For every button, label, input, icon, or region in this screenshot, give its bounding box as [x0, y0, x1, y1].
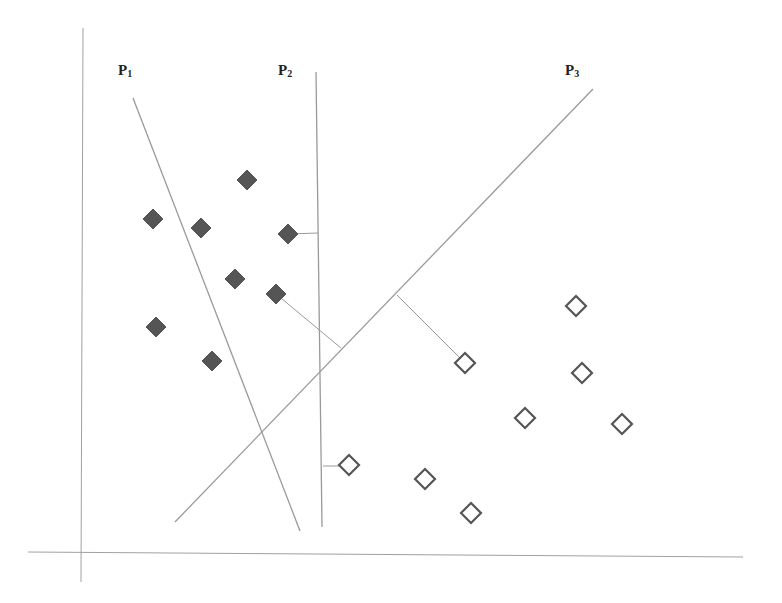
filled-diamond-point: [278, 224, 298, 244]
open-diamond-point: [566, 296, 586, 316]
margin-line: [397, 295, 465, 363]
open-diamond-point: [572, 363, 592, 383]
margin-line: [276, 294, 341, 348]
hyperplane-p1: [133, 98, 300, 531]
margin-lines: [276, 233, 465, 466]
hyperplane-p2: [316, 72, 322, 527]
filled-diamond-point: [237, 170, 257, 190]
open-diamond-point: [612, 414, 632, 434]
filled-diamond-point: [202, 351, 222, 371]
class-filled-points: [143, 170, 298, 371]
svm-hyperplane-diagram: [0, 0, 782, 603]
y-axis: [81, 28, 83, 582]
open-diamond-point: [339, 455, 359, 475]
label-p2: P2: [278, 62, 292, 79]
label-p1: P1: [118, 62, 132, 79]
class-open-points: [339, 296, 632, 523]
filled-diamond-point: [225, 269, 245, 289]
hyperplanes: [133, 72, 593, 531]
open-diamond-point: [461, 503, 481, 523]
axes: [28, 28, 743, 582]
filled-diamond-point: [266, 284, 286, 304]
filled-diamond-point: [146, 317, 166, 337]
label-p3: P3: [565, 62, 579, 79]
hyperplane-p3: [175, 89, 593, 522]
filled-diamond-point: [191, 218, 211, 238]
open-diamond-point: [415, 469, 435, 489]
x-axis: [28, 552, 743, 557]
filled-diamond-point: [143, 209, 163, 229]
open-diamond-point: [515, 408, 535, 428]
